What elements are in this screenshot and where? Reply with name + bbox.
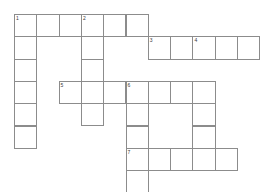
crossword-cell[interactable] xyxy=(148,148,171,171)
clue-number-2: 2 xyxy=(83,15,86,21)
crossword-cell[interactable] xyxy=(103,14,126,37)
clue-number-6: 6 xyxy=(128,82,131,88)
crossword-cell[interactable] xyxy=(81,36,104,59)
crossword-cell[interactable] xyxy=(81,59,104,82)
crossword-cell-numbered-4[interactable]: 4 xyxy=(192,36,215,59)
clue-number-5: 5 xyxy=(61,82,64,88)
crossword-cell-numbered-5[interactable]: 5 xyxy=(59,81,82,104)
crossword-cell[interactable] xyxy=(148,81,171,104)
crossword-grid: 12345678 xyxy=(0,0,266,192)
crossword-cell[interactable] xyxy=(126,14,149,37)
crossword-cell-numbered-2[interactable]: 2 xyxy=(81,14,104,37)
clue-number-3: 3 xyxy=(150,37,153,43)
crossword-cell[interactable] xyxy=(59,14,82,37)
crossword-cell-numbered-7[interactable]: 7 xyxy=(126,148,149,171)
crossword-cell[interactable] xyxy=(81,81,104,104)
crossword-cell-numbered-1[interactable]: 1 xyxy=(14,14,37,37)
crossword-cell[interactable] xyxy=(14,103,37,126)
crossword-cell-numbered-3[interactable]: 3 xyxy=(148,36,171,59)
crossword-cell[interactable] xyxy=(81,103,104,126)
crossword-cell[interactable] xyxy=(14,59,37,82)
crossword-cell[interactable] xyxy=(103,81,126,104)
crossword-cell[interactable] xyxy=(14,36,37,59)
crossword-cell[interactable] xyxy=(36,14,59,37)
crossword-cell[interactable] xyxy=(192,103,215,126)
crossword-cell[interactable] xyxy=(126,170,149,192)
clue-number-1: 1 xyxy=(16,15,19,21)
crossword-cell[interactable] xyxy=(215,148,238,171)
crossword-cell[interactable] xyxy=(170,81,193,104)
crossword-cell-numbered-6[interactable]: 6 xyxy=(126,81,149,104)
crossword-cell[interactable] xyxy=(192,148,215,171)
crossword-cell[interactable] xyxy=(237,36,260,59)
clue-number-4: 4 xyxy=(194,37,197,43)
crossword-cell[interactable] xyxy=(192,126,215,149)
clue-number-7: 7 xyxy=(128,149,131,155)
crossword-cell[interactable] xyxy=(170,36,193,59)
crossword-cell[interactable] xyxy=(215,36,238,59)
crossword-cell[interactable] xyxy=(192,81,215,104)
crossword-cell[interactable] xyxy=(126,126,149,149)
crossword-cell[interactable] xyxy=(14,126,37,149)
crossword-cell[interactable] xyxy=(170,148,193,171)
crossword-cell[interactable] xyxy=(126,103,149,126)
crossword-cell[interactable] xyxy=(14,81,37,104)
